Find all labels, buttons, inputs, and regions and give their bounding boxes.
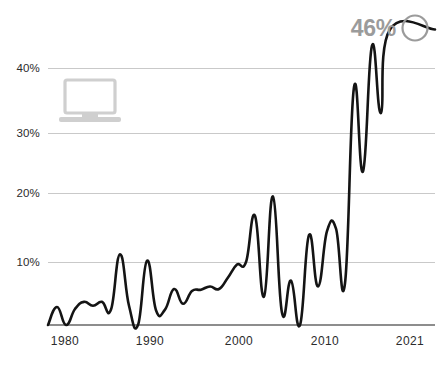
endpoint-callout: 46% <box>351 15 428 41</box>
laptop-icon <box>59 80 121 122</box>
x-tick-label-2000: 2000 <box>225 334 253 348</box>
x-tick-label-1980: 1980 <box>51 334 79 348</box>
endpoint-value-label: 46% <box>351 15 396 41</box>
x-tick-label-2021: 2021 <box>396 334 424 348</box>
y-tick-label-30: 30% <box>16 127 40 139</box>
x-tick-label-2010: 2010 <box>311 334 339 348</box>
x-axis-labels: 1980 1990 2000 2010 2021 <box>51 334 424 348</box>
x-tick-label-1990: 1990 <box>136 334 164 348</box>
y-tick-label-40: 40% <box>16 62 40 74</box>
y-axis-labels: 40% 30% 20% 10% <box>16 62 40 268</box>
endpoint-marker-circle <box>403 16 428 41</box>
series-line-share <box>48 21 435 329</box>
gridlines-group <box>48 68 435 325</box>
chart-container: 40% 30% 20% 10% 1980 1990 2000 2010 2021… <box>0 0 443 367</box>
y-tick-label-20: 20% <box>16 187 40 199</box>
y-tick-label-10: 10% <box>16 256 40 268</box>
line-chart: 40% 30% 20% 10% 1980 1990 2000 2010 2021… <box>0 0 443 367</box>
